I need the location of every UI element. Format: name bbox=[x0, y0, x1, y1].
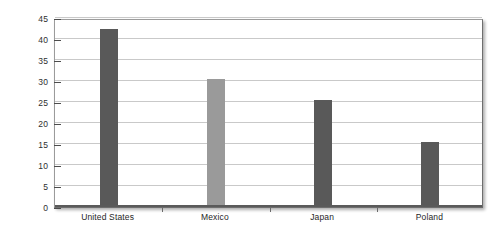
y-tick-mark bbox=[54, 61, 61, 62]
bar[interactable] bbox=[207, 79, 225, 207]
y-tick-label: 10 bbox=[24, 161, 48, 171]
x-axis-category-labels: United StatesMexicoJapanPoland bbox=[54, 212, 483, 228]
bar-slot bbox=[270, 20, 377, 207]
y-tick-label: 45 bbox=[24, 14, 48, 24]
x-category-label: Poland bbox=[416, 212, 443, 222]
plot-area bbox=[54, 19, 483, 208]
bar[interactable] bbox=[100, 29, 118, 208]
bar[interactable] bbox=[314, 100, 332, 207]
y-tick-mark bbox=[54, 166, 61, 167]
y-tick-mark bbox=[54, 82, 61, 83]
y-tick-mark bbox=[54, 208, 61, 209]
x-axis-line bbox=[55, 205, 482, 207]
bar[interactable] bbox=[421, 142, 439, 207]
y-tick-label: 25 bbox=[24, 98, 48, 108]
y-tick-label: 5 bbox=[24, 182, 48, 192]
y-tick-label: 20 bbox=[24, 119, 48, 129]
bar-slot bbox=[162, 20, 269, 207]
bar-slot bbox=[55, 20, 162, 207]
x-category-label: Japan bbox=[310, 212, 334, 222]
y-tick-mark bbox=[54, 187, 61, 188]
y-tick-mark bbox=[54, 145, 61, 146]
y-axis-tick-labels: 051015202530354045 bbox=[24, 19, 48, 211]
y-tick-mark bbox=[54, 124, 61, 125]
bar-chart-figure: Percentage 051015202530354045 United Sta… bbox=[0, 0, 498, 240]
y-tick-label: 35 bbox=[24, 56, 48, 66]
gridline bbox=[55, 17, 482, 18]
y-tick-label: 15 bbox=[24, 140, 48, 150]
x-category-label: United States bbox=[81, 212, 134, 222]
x-category-label: Mexico bbox=[201, 212, 229, 222]
y-tick-mark bbox=[54, 40, 61, 41]
y-tick-mark bbox=[54, 19, 61, 20]
y-tick-label: 40 bbox=[24, 35, 48, 45]
bar-series bbox=[55, 20, 482, 207]
bar-slot bbox=[377, 20, 484, 207]
y-tick-label: 0 bbox=[24, 203, 48, 213]
y-tick-label: 30 bbox=[24, 77, 48, 87]
y-tick-mark bbox=[54, 103, 61, 104]
